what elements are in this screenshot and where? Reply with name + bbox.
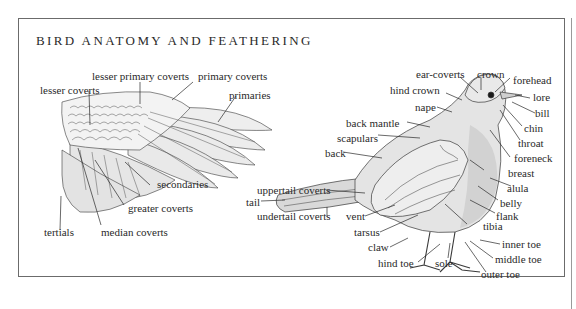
label-scapulars: scapulars: [337, 132, 378, 144]
label-tail: tail: [246, 196, 260, 208]
wing-illustration: [62, 92, 272, 213]
label-bill: bill: [535, 107, 550, 119]
label-claw: claw: [368, 241, 389, 253]
label-throat: throat: [518, 137, 544, 149]
label-outer-toe: outer toe: [481, 268, 520, 280]
label-foreneck: foreneck: [514, 152, 552, 164]
label-primary-coverts: primary coverts: [198, 70, 267, 82]
label-lesser-primary-coverts: lesser primary coverts: [92, 70, 189, 82]
label-inner-toe: inner toe: [502, 238, 541, 250]
label-lore: lore: [533, 91, 550, 103]
label-median-coverts: median coverts: [101, 226, 168, 238]
label-ear-coverts: ear-coverts: [416, 68, 465, 80]
label-tarsus: tarsus: [354, 226, 380, 238]
label-primaries: primaries: [229, 89, 271, 101]
label-alula: alula: [507, 182, 528, 194]
label-hind-crown: hind crown: [390, 84, 440, 96]
label-vent: vent: [346, 210, 365, 222]
label-tertials: tertials: [44, 226, 74, 238]
label-lesser-coverts: lesser coverts: [40, 84, 100, 96]
label-back: back: [325, 147, 346, 159]
label-back-mantle: back mantle: [346, 117, 399, 129]
label-greater-coverts: greater coverts: [128, 202, 193, 214]
label-hind-toe: hind toe: [378, 257, 414, 269]
label-chin: chin: [524, 122, 543, 134]
label-crown: crown: [477, 68, 505, 80]
label-secondaries: secondaries: [157, 178, 208, 190]
label-nape: nape: [415, 101, 436, 113]
label-tibia: tibia: [483, 220, 503, 232]
label-undertail-coverts: undertail coverts: [257, 210, 331, 222]
anatomy-illustration: [0, 0, 576, 309]
label-breast: breast: [508, 167, 534, 179]
label-sole: sole: [435, 257, 453, 269]
label-forehead: forehead: [513, 74, 551, 86]
label-middle-toe: middle toe: [495, 253, 542, 265]
label-belly: belly: [500, 197, 522, 209]
label-uppertail-coverts: uppertail coverts: [257, 184, 331, 196]
